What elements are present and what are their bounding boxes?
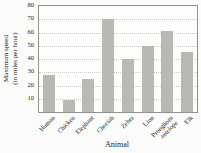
bar-chicken <box>63 100 75 112</box>
gridline-70 <box>39 19 197 20</box>
bar-chart-figure: Maximum speed (in miles per hour) Animal… <box>0 0 201 153</box>
y-tick-70: 70 <box>0 14 34 22</box>
bar-human <box>43 75 55 112</box>
bar-elephant <box>82 79 94 112</box>
y-tick-60: 60 <box>0 28 34 36</box>
bar-lion <box>142 46 154 112</box>
plot-area <box>38 5 198 113</box>
y-tick-20: 20 <box>0 81 34 89</box>
bar-elk <box>181 52 193 112</box>
y-tick-30: 30 <box>0 67 34 75</box>
bar-zebra <box>122 59 134 112</box>
y-tick-50: 50 <box>0 41 34 49</box>
y-tick-80: 80 <box>0 1 34 9</box>
bar-cheetah <box>102 19 114 112</box>
y-tick-10: 10 <box>0 94 34 102</box>
bar-pronghorn-antelope <box>161 31 173 112</box>
y-tick-40: 40 <box>0 54 34 62</box>
